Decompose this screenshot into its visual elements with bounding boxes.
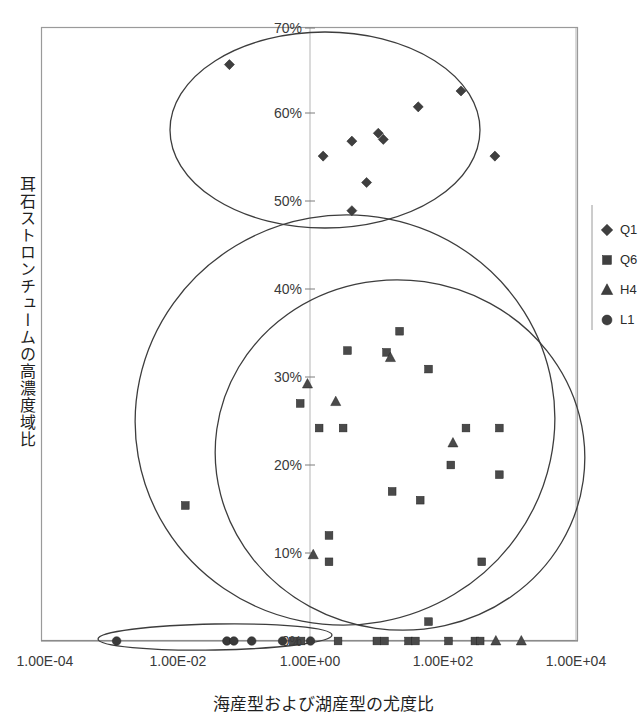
upper-Q1-ellipse xyxy=(170,32,480,228)
data-point-H4 xyxy=(331,396,341,405)
data-point-H4 xyxy=(448,438,458,447)
legend[interactable]: Q1Q6H4L1 xyxy=(601,222,637,327)
data-point-H4 xyxy=(302,379,312,388)
data-point-Q6 xyxy=(416,496,424,504)
data-point-Q1 xyxy=(318,151,328,161)
x-tick-label: 1.00E+00 xyxy=(280,653,341,669)
data-point-Q6 xyxy=(495,424,503,432)
y-tick-label: 30% xyxy=(274,369,302,385)
data-point-L1 xyxy=(247,637,256,646)
data-point-Q6 xyxy=(296,400,304,408)
legend-marker-H4 xyxy=(601,284,612,295)
x-tick-label: 1.00E+04 xyxy=(546,653,607,669)
ellipse-overlays xyxy=(98,32,608,658)
legend-marker-L1 xyxy=(602,315,612,325)
data-point-Q1 xyxy=(490,151,500,161)
data-point-L1 xyxy=(112,637,121,646)
legend-label-H4[interactable]: H4 xyxy=(620,282,637,297)
y-tick-label: 60% xyxy=(274,105,302,121)
legend-marker-Q1 xyxy=(601,224,613,236)
data-point-Q6 xyxy=(334,637,342,645)
y-axis-title: 耳石ストロンチュームの高濃度域比 xyxy=(2,176,36,506)
legend-label-Q6[interactable]: Q6 xyxy=(620,252,637,267)
data-point-Q6 xyxy=(315,424,323,432)
data-point-Q1 xyxy=(347,136,357,146)
plot-canvas: 70%60%50%40%30%20%10%0% 1.00E-041.00E-02… xyxy=(0,0,643,723)
data-point-Q6 xyxy=(181,502,189,510)
data-point-Q6 xyxy=(344,347,352,355)
legend-label-Q1[interactable]: Q1 xyxy=(620,222,637,237)
mid-right-ellipse xyxy=(192,256,607,654)
x-tick-labels: 1.00E-041.00E-021.00E+001.00E+021.00E+04 xyxy=(17,653,607,669)
data-point-Q6 xyxy=(425,365,433,373)
y-tick-label: 50% xyxy=(274,193,302,209)
data-point-L1 xyxy=(306,637,315,646)
data-point-Q1 xyxy=(413,102,423,112)
data-point-Q6 xyxy=(325,558,333,566)
y-tick-label: 0% xyxy=(282,633,302,649)
data-point-Q6 xyxy=(325,532,333,540)
data-point-Q6 xyxy=(396,327,404,335)
data-point-Q6 xyxy=(381,637,389,645)
y-tick-labels: 70%60%50%40%30%20%10%0% xyxy=(274,20,302,649)
data-point-Q1 xyxy=(224,60,234,70)
data-point-Q1 xyxy=(362,177,372,187)
data-point-L1 xyxy=(230,637,239,646)
data-point-Q6 xyxy=(476,637,484,645)
data-point-Q6 xyxy=(388,488,396,496)
data-point-Q6 xyxy=(447,461,455,469)
y-tick-label: 70% xyxy=(274,20,302,36)
data-point-Q6 xyxy=(412,637,420,645)
data-point-Q6 xyxy=(425,618,433,626)
data-point-Q6 xyxy=(478,558,486,566)
data-point-Q6 xyxy=(462,424,470,432)
x-tick-label: 1.00E-02 xyxy=(150,653,207,669)
data-point-Q6 xyxy=(339,424,347,432)
legend-marker-Q6 xyxy=(603,256,612,265)
x-tick-label: 1.00E-04 xyxy=(17,653,74,669)
y-tick-label: 10% xyxy=(274,545,302,561)
data-point-Q6 xyxy=(405,637,413,645)
data-point-Q6 xyxy=(495,471,503,479)
scatter-chart: 70%60%50%40%30%20%10%0% 1.00E-041.00E-02… xyxy=(0,0,643,723)
data-points xyxy=(112,60,526,646)
legend-label-L1[interactable]: L1 xyxy=(620,312,634,327)
data-point-Q6 xyxy=(373,637,381,645)
mid-large-ellipse xyxy=(103,182,588,659)
data-point-Q6 xyxy=(445,637,453,645)
y-tick-label: 20% xyxy=(274,457,302,473)
x-axis-title: 海産型および湖産型の尤度比 xyxy=(213,694,434,714)
y-tick-label: 40% xyxy=(274,281,302,297)
x-tick-label: 1.00E+02 xyxy=(413,653,474,669)
